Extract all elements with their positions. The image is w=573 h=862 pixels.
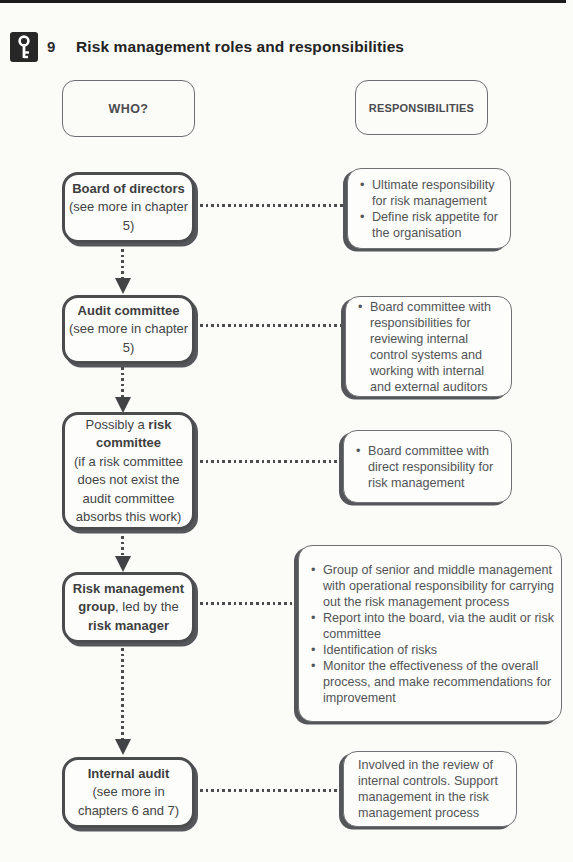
bullet-item: Report into the board, via the audit or …: [323, 610, 555, 642]
resp-text: Involved in the review of internal contr…: [344, 757, 516, 821]
arrow-head-icon-3: [115, 556, 131, 572]
dotted-connector-row5: [200, 789, 341, 792]
arrow-head-icon-2: [115, 397, 131, 413]
resp-box-risk-committee: Board committee with direct responsibili…: [343, 430, 512, 503]
column-header-who-label: WHO?: [109, 102, 149, 116]
flow-arrow-line-2: [121, 367, 124, 398]
resp-box-internal-audit: Involved in the review of internal contr…: [343, 751, 517, 827]
who-box-subtitle: (if a risk committee does not exist the …: [68, 453, 189, 527]
resp-box-board-of-directors: Ultimate responsibility for risk managem…: [347, 168, 511, 249]
section-number: 9: [47, 38, 55, 55]
flow-arrow-line-4: [121, 648, 124, 740]
who-box-internal-audit: Internal audit (see more in chapters 6 a…: [62, 757, 195, 828]
who-box-board-of-directors: Board of directors (see more in chapter …: [62, 172, 195, 243]
arrow-head-icon-1: [115, 278, 131, 294]
who-box-title2: risk manager: [88, 618, 169, 633]
who-box-risk-committee: Possibly a risk committee (if a risk com…: [62, 412, 195, 530]
bullet-list: Group of senior and middle management wi…: [299, 562, 561, 706]
column-header-who: WHO?: [62, 80, 195, 137]
dotted-connector-row3: [200, 460, 341, 463]
book-page: 9 Risk management roles and responsibili…: [0, 0, 573, 862]
arrow-head-icon-4: [115, 739, 131, 755]
resp-box-audit-committee: Board committee with responsibilities fo…: [345, 296, 512, 397]
bullet-item: Board committee with direct responsibili…: [368, 443, 505, 491]
bullet-item: Group of senior and middle management wi…: [323, 562, 555, 610]
column-header-responsibilities: RESPONSIBILITIES: [355, 80, 488, 135]
who-box-audit-committee: Audit committee (see more in chapter 5): [62, 295, 195, 364]
bullet-list: Board committee with responsibilities fo…: [346, 299, 511, 395]
bullet-item: Monitor the effectiveness of the overall…: [323, 658, 555, 706]
key-icon: [10, 32, 38, 62]
who-box-title: Audit committee: [78, 302, 180, 321]
who-box-title: Board of directors: [72, 180, 185, 199]
who-box-title-mid: , led by the: [115, 599, 179, 614]
dotted-connector-row2: [200, 324, 343, 327]
who-box-subtitle: (see more in chapters 6 and 7): [68, 783, 189, 820]
who-box-risk-management-group: Risk management group, led by the risk m…: [62, 572, 195, 643]
dotted-connector-row1: [200, 204, 346, 207]
resp-box-risk-management-group: Group of senior and middle management wi…: [298, 545, 562, 722]
bullet-item: Board committee with responsibilities fo…: [370, 299, 505, 395]
column-header-responsibilities-label: RESPONSIBILITIES: [369, 102, 474, 114]
who-box-title-line: Risk management group, led by the risk m…: [68, 580, 189, 636]
who-box-subtitle: (see more in chapter 5): [68, 320, 189, 357]
who-box-title-line: Possibly a risk committee: [68, 416, 189, 453]
dotted-connector-row4: [200, 602, 297, 605]
page-title: Risk management roles and responsibiliti…: [76, 38, 404, 56]
bullet-item: Define risk appetite for the organisatio…: [372, 209, 504, 241]
page-top-rule: [0, 0, 566, 3]
bullet-item: Ultimate responsibility for risk managem…: [372, 177, 504, 209]
flow-arrow-line-3: [121, 536, 124, 557]
flow-arrow-line-1: [121, 249, 124, 278]
who-box-title-prefix: Possibly a: [85, 417, 148, 432]
who-box-subtitle: (see more in chapter 5): [68, 198, 189, 235]
bullet-list: Ultimate responsibility for risk managem…: [348, 177, 510, 241]
who-box-title: Internal audit: [88, 765, 170, 784]
bullet-item: Identification of risks: [323, 642, 555, 658]
bullet-list: Board committee with direct responsibili…: [344, 443, 511, 491]
